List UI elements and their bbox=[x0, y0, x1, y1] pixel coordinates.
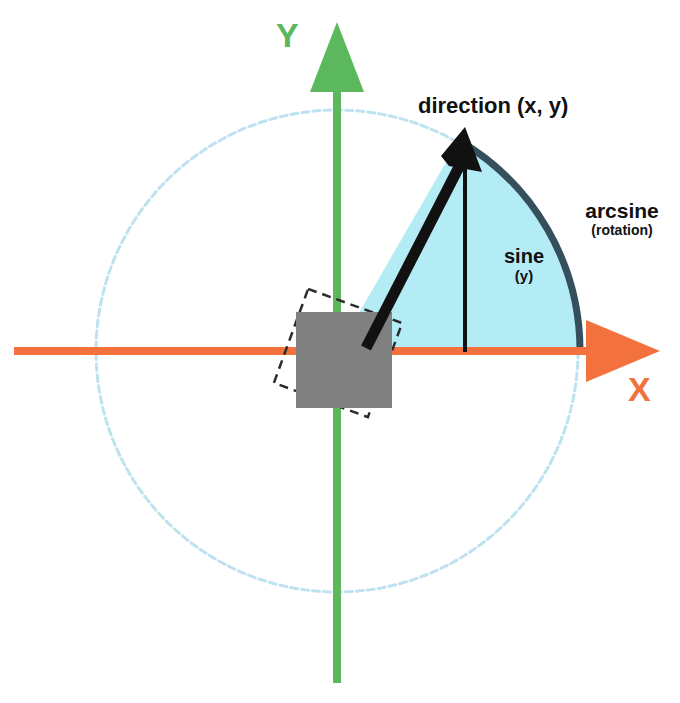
sine-sublabel: (y) bbox=[487, 267, 561, 284]
direction-label: direction (x, y) bbox=[418, 93, 568, 119]
y-axis-arrowhead bbox=[310, 22, 364, 92]
y-axis-label: Y bbox=[276, 18, 299, 52]
diagram-canvas: Y X direction (x, y) arcsine (rotation) … bbox=[0, 0, 680, 703]
sine-label-group: sine (y) bbox=[487, 245, 561, 284]
arcsine-label-group: arcsine (rotation) bbox=[566, 199, 678, 238]
sine-label: sine bbox=[487, 245, 561, 268]
arcsine-sublabel: (rotation) bbox=[566, 222, 678, 238]
diagram-svg bbox=[0, 0, 680, 703]
x-axis-label: X bbox=[628, 372, 651, 406]
arcsine-label: arcsine bbox=[566, 199, 678, 223]
